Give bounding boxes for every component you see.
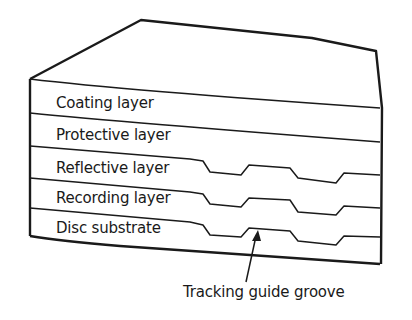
layer-label-substrate: Disc substrate: [56, 219, 161, 237]
layer-label-recording: Recording layer: [56, 189, 170, 207]
annotation-label-groove: Tracking guide groove: [183, 283, 345, 301]
layer-label-reflective: Reflective layer: [56, 159, 169, 177]
annotation-arrow-line: [246, 236, 256, 282]
arrow-head-icon: [252, 230, 261, 241]
layer-label-protective: Protective layer: [56, 126, 171, 144]
disc-bottom-edge: [30, 236, 380, 264]
layer-label-coating: Coating layer: [56, 94, 154, 112]
